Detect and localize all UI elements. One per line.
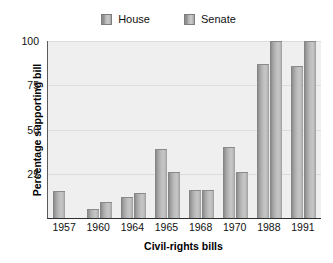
x-tick-label: 1964	[115, 221, 149, 235]
bar-group	[150, 41, 184, 218]
x-axis-title: Civil-rights bills	[47, 240, 320, 252]
x-axis-ticks: 19571960196419651968197019881991	[47, 221, 320, 235]
x-tick-label: 1960	[81, 221, 115, 235]
bar-house-1970	[223, 147, 235, 218]
plot-area	[47, 41, 321, 219]
x-tick-label: 1970	[218, 221, 252, 235]
bar-house-1968	[189, 190, 201, 218]
bar-group	[219, 41, 253, 218]
y-tick-label: 100	[21, 35, 39, 47]
x-tick-label: 1965	[149, 221, 183, 235]
bar-group	[48, 41, 82, 218]
bar-chart: House Senate Percentage supporting bill …	[0, 0, 333, 263]
bar-group	[82, 41, 116, 218]
bar-senate-1970	[236, 172, 248, 218]
legend-swatch-senate	[184, 14, 195, 25]
legend-item-house: House	[101, 14, 150, 25]
bar-house-1957	[53, 191, 65, 218]
bars-layer	[48, 41, 321, 218]
x-tick-label: 1991	[286, 221, 320, 235]
bar-group	[253, 41, 287, 218]
bar-house-1960	[87, 209, 99, 218]
legend-item-senate: Senate	[184, 14, 236, 25]
legend-label-house: House	[118, 14, 150, 25]
x-tick-label: 1988	[252, 221, 286, 235]
bar-senate-1991	[304, 41, 316, 218]
bar-senate-1965	[168, 172, 180, 218]
bar-group	[287, 41, 321, 218]
bar-senate-1964	[134, 193, 146, 218]
legend-label-senate: Senate	[201, 14, 236, 25]
x-tick-label: 1968	[184, 221, 218, 235]
bar-senate-1960	[100, 202, 112, 218]
y-tick-label: 75	[27, 79, 39, 91]
chart-legend: House Senate	[0, 8, 333, 30]
bar-house-1991	[291, 66, 303, 218]
bar-senate-1968	[202, 190, 214, 218]
bar-senate-1988	[270, 41, 282, 218]
y-tick-label: 50	[27, 124, 39, 136]
y-tick-label: 25	[27, 168, 39, 180]
legend-swatch-house	[101, 14, 112, 25]
bar-group	[185, 41, 219, 218]
x-tick-label: 1957	[47, 221, 81, 235]
bar-group	[116, 41, 150, 218]
bar-house-1988	[257, 64, 269, 218]
bar-house-1964	[121, 197, 133, 218]
bar-house-1965	[155, 149, 167, 218]
y-axis-ticks: 255075100	[0, 41, 45, 218]
